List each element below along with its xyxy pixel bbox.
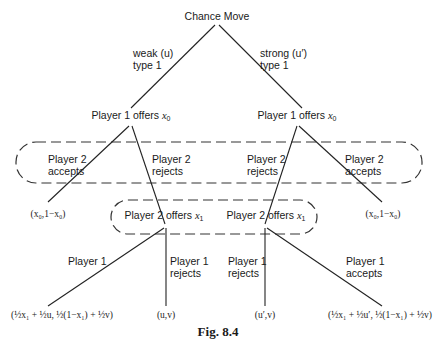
player1-offer-node-right: Player 1 offers x0	[257, 109, 336, 122]
p2-accepts-right-label: Player 2	[345, 153, 384, 165]
p2-accepts-left-label: Player 2	[48, 153, 87, 165]
p2-rejects-left-sublabel: rejects	[152, 165, 183, 177]
payoff-left-accept: (½x₁ + ½u, ½(1−x₁) + ½v)	[11, 310, 113, 321]
p1-rejects-right-label: Player 1	[228, 255, 267, 267]
p1-accepts-right-sublabel: accepts	[346, 267, 382, 279]
p1-rejects-right-sublabel: rejects	[228, 267, 259, 279]
p2-accepts-right-sublabel: accepts	[345, 165, 381, 177]
p1-accepts-right-label: Player 1	[346, 255, 385, 267]
strong-type-sublabel: type 1	[260, 59, 289, 71]
p2-rejects-right-label: Player 2	[247, 153, 286, 165]
player1-offer-node-left: Player 1 offers x0	[91, 109, 170, 122]
payoff-right-reject: (u′,v)	[255, 310, 275, 321]
player2-offer-node-right: Player 2 offers x1	[226, 209, 305, 222]
payoff-accept-x0-left: (x₀,1−x₀)	[31, 209, 66, 220]
p2-accepts-left-sublabel: accepts	[48, 165, 84, 177]
figure-caption: Fig. 8.4	[198, 324, 239, 339]
strong-type-label: strong (u′)	[260, 47, 307, 59]
weak-type-sublabel: type 1	[133, 59, 162, 71]
p2-rejects-left-label: Player 2	[152, 153, 191, 165]
player2-offer-node-left: Player 2 offers x1	[124, 209, 203, 222]
payoff-accept-x0-right: (x₀,1−x₀)	[366, 209, 401, 220]
p1-rejects-left-label: Player 1	[170, 255, 209, 267]
game-tree-figure: Chance Move weak (u) type 1 strong (u′) …	[0, 0, 437, 341]
edge-p1-accept-left	[48, 228, 164, 306]
chance-move-label: Chance Move	[185, 10, 250, 22]
weak-type-label: weak (u)	[132, 47, 173, 59]
p1-rejects-left-sublabel: rejects	[170, 267, 201, 279]
payoff-left-reject: (u,v)	[157, 310, 175, 321]
p2-rejects-right-sublabel: rejects	[247, 165, 278, 177]
payoff-right-accept: (½x₁ + ½u′, ½(1−x₁) + ½v)	[328, 310, 432, 321]
p1-accept-left-label: Player 1	[68, 255, 107, 267]
